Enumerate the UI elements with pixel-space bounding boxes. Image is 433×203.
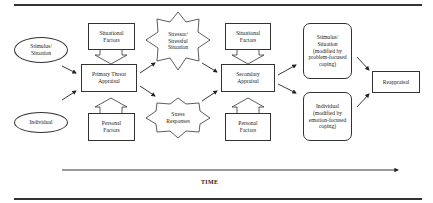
- problem-focused-coping-box: Stimulus/ Situation (modified by problem…: [303, 23, 352, 79]
- stressor-label-wrap: Stressor/ Stressful Situation: [158, 28, 198, 54]
- secondary-personal-factors-label: Personal Factors: [226, 120, 270, 134]
- problem-focused-coping-label: Stimulus/ Situation (modified by problem…: [304, 34, 351, 69]
- individual-ellipse: Individual: [14, 112, 68, 133]
- connectors-layer: [0, 0, 433, 203]
- stressor-label: Stressor/ Stressful Situation: [158, 31, 198, 52]
- secondary-situational-factors-label: Situational Factors: [226, 30, 270, 44]
- stress-responses-label-wrap: Stress Responses: [160, 108, 196, 128]
- primary-situational-factors-box: Situational Factors: [88, 23, 135, 50]
- stimulus-situation-label: Stimulus/ Situation: [15, 43, 67, 57]
- secondary-personal-factors-box: Personal Factors: [225, 113, 271, 141]
- reappraisal-label: Reappraisal: [383, 79, 409, 86]
- primary-threat-appraisal-label: Primary Threat Appraisal: [82, 71, 136, 85]
- primary-personal-factors-label: Personal Factors: [89, 120, 134, 134]
- emotion-focused-coping-box: Individual (modified by emotion-focused …: [303, 92, 352, 141]
- primary-personal-factors-box: Personal Factors: [88, 113, 135, 141]
- stimulus-situation-ellipse: Stimulus/ Situation: [14, 37, 68, 63]
- individual-label: Individual: [30, 119, 53, 126]
- emotion-focused-coping-label: Individual (modified by emotion-focused …: [304, 103, 351, 131]
- reappraisal-box: Reappraisal: [372, 71, 420, 93]
- secondary-appraisal-box: Secondary Appraisal: [221, 64, 275, 92]
- secondary-situational-factors-box: Situational Factors: [225, 23, 271, 50]
- primary-situational-factors-label: Situational Factors: [89, 30, 134, 44]
- stress-responses-label: Stress Responses: [160, 111, 196, 125]
- secondary-appraisal-label: Secondary Appraisal: [222, 71, 274, 85]
- primary-threat-appraisal-box: Primary Threat Appraisal: [81, 64, 137, 92]
- time-axis-label: TIME: [201, 179, 218, 185]
